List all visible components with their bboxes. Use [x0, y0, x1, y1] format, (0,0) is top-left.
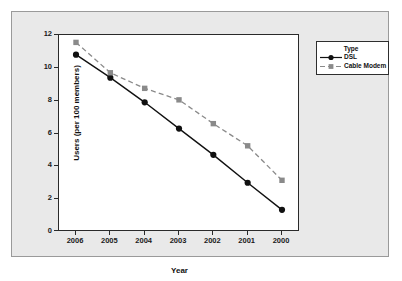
- legend-title: Type: [319, 45, 385, 52]
- x-tick-mark: [281, 231, 282, 235]
- x-tick-mark: [178, 231, 179, 235]
- chart-canvas: Users (per 100 members) Year 024681012 2…: [11, 11, 389, 257]
- data-point: [211, 121, 216, 126]
- y-tick-label: 10: [32, 63, 52, 71]
- x-tick-mark: [109, 231, 110, 235]
- series-line-dsl: [76, 55, 282, 210]
- x-tick-label: 2004: [129, 237, 159, 245]
- y-tick-mark: [54, 34, 58, 35]
- x-tick-label: 2003: [163, 237, 193, 245]
- x-tick-mark: [144, 231, 145, 235]
- chart-screenshot: Users (per 100 members) Year 024681012 2…: [0, 0, 402, 281]
- data-point: [142, 99, 148, 105]
- x-tick-label: 2001: [232, 237, 262, 245]
- x-tick-mark: [247, 231, 248, 235]
- data-point: [176, 125, 182, 131]
- plot-area: Users (per 100 members) Year: [58, 34, 299, 231]
- legend-key-cable-modem: [319, 62, 343, 71]
- x-tick-label: 2006: [60, 237, 90, 245]
- legend-item-dsl: DSL: [319, 53, 385, 62]
- y-tick-label: 8: [32, 96, 52, 104]
- legend-item-cable-modem: Cable Modem: [319, 62, 385, 71]
- data-point: [73, 40, 78, 45]
- y-tick-mark: [54, 198, 58, 199]
- data-point: [142, 86, 147, 91]
- y-tick-mark: [54, 133, 58, 134]
- y-tick-label: 0: [32, 227, 52, 235]
- y-axis-title: Users (per 100 members): [73, 53, 81, 173]
- data-point: [107, 75, 113, 81]
- x-axis-title: Year: [59, 267, 300, 275]
- y-tick-label: 6: [32, 129, 52, 137]
- y-tick-mark: [54, 67, 58, 68]
- x-tick-label: 2000: [266, 237, 296, 245]
- plot-svg: [59, 35, 300, 232]
- data-point: [245, 143, 250, 148]
- data-point: [245, 180, 251, 186]
- y-tick-label: 2: [32, 194, 52, 202]
- data-point: [279, 207, 285, 213]
- x-tick-mark: [212, 231, 213, 235]
- legend: Type DSL Cable Modem: [316, 41, 389, 75]
- data-point: [176, 97, 181, 102]
- legend-key-dsl: [319, 53, 343, 62]
- data-point: [210, 152, 216, 158]
- y-tick-label: 12: [32, 30, 52, 38]
- x-tick-label: 2005: [94, 237, 124, 245]
- legend-label-dsl: DSL: [343, 54, 357, 61]
- y-tick-mark: [54, 100, 58, 101]
- x-tick-mark: [75, 231, 76, 235]
- y-tick-mark: [54, 230, 58, 231]
- y-tick-label: 4: [32, 161, 52, 169]
- data-point: [108, 70, 113, 75]
- x-tick-label: 2002: [197, 237, 227, 245]
- y-tick-mark: [54, 165, 58, 166]
- series-line-cable-modem: [76, 42, 282, 180]
- legend-label-cable-modem: Cable Modem: [343, 63, 386, 70]
- data-point: [279, 178, 284, 183]
